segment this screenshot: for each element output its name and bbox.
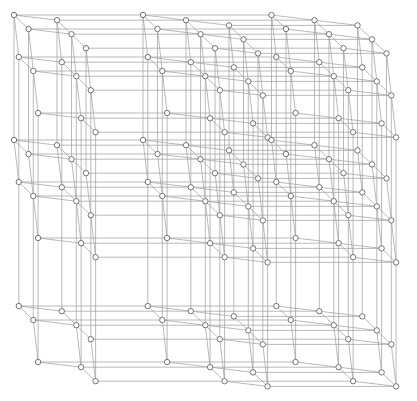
graph-node xyxy=(317,309,322,314)
graph-node xyxy=(389,93,394,98)
graph-node xyxy=(188,185,193,190)
graph-node xyxy=(59,309,64,314)
graph-node xyxy=(269,12,274,17)
graph-node xyxy=(198,157,203,162)
graph-node xyxy=(164,359,169,364)
graph-node xyxy=(369,37,374,42)
graph-node xyxy=(260,93,265,98)
graph-node xyxy=(288,317,293,322)
graph-node xyxy=(59,185,64,190)
graph-node xyxy=(288,68,293,73)
graph-node xyxy=(355,23,360,28)
graph-node xyxy=(69,157,74,162)
graph-node xyxy=(274,303,279,308)
graph-node xyxy=(341,171,346,176)
graph-node xyxy=(246,204,251,209)
graph-node xyxy=(331,199,336,204)
graph-node xyxy=(35,110,40,115)
graph-node xyxy=(384,176,389,181)
graph-node xyxy=(88,213,93,218)
graph-node xyxy=(212,46,217,51)
graph-node xyxy=(155,26,160,31)
graph-node xyxy=(217,213,222,218)
diagram-canvas xyxy=(0,0,417,401)
graph-node xyxy=(265,384,270,389)
graph-node xyxy=(207,365,212,370)
graph-node xyxy=(283,151,288,156)
graph-node xyxy=(93,130,98,135)
graph-node xyxy=(336,241,341,246)
graph-node xyxy=(384,51,389,56)
graph-node xyxy=(389,218,394,223)
graph-node xyxy=(312,18,317,23)
graph-node xyxy=(360,190,365,195)
graph-node xyxy=(93,379,98,384)
graph-node xyxy=(250,246,255,251)
graph-node xyxy=(336,116,341,121)
graph-node xyxy=(374,79,379,84)
graph-node xyxy=(54,143,59,148)
graph-node xyxy=(16,179,21,184)
graph-node xyxy=(160,317,165,322)
graph-node xyxy=(188,309,193,314)
graph-node xyxy=(250,121,255,126)
graph-node xyxy=(183,18,188,23)
graph-node xyxy=(78,241,83,246)
graph-node xyxy=(74,199,79,204)
graph-node xyxy=(379,246,384,251)
graph-node xyxy=(164,110,169,115)
graph-node xyxy=(355,148,360,153)
graph-node xyxy=(346,88,351,93)
graph-node xyxy=(83,46,88,51)
graph-node xyxy=(288,193,293,198)
graph-node xyxy=(222,255,227,260)
graph-node xyxy=(374,328,379,333)
graph-node xyxy=(217,337,222,342)
graph-node xyxy=(59,60,64,65)
graph-node xyxy=(246,328,251,333)
graph-node xyxy=(11,137,16,142)
graph-node xyxy=(160,68,165,73)
graph-node xyxy=(69,32,74,37)
graph-node xyxy=(222,130,227,135)
graph-node xyxy=(331,323,336,328)
graph-node xyxy=(260,342,265,347)
graph-node xyxy=(26,151,31,156)
graph-node xyxy=(374,204,379,209)
graph-node xyxy=(88,337,93,342)
graph-node xyxy=(250,370,255,375)
graph-node xyxy=(283,26,288,31)
graph-node xyxy=(331,74,336,79)
graph-node xyxy=(140,12,145,17)
graph-node xyxy=(203,199,208,204)
graph-node xyxy=(231,314,236,319)
graph-node xyxy=(35,359,40,364)
graph-node xyxy=(379,121,384,126)
graph-node xyxy=(188,60,193,65)
graph-node xyxy=(155,151,160,156)
graph-node xyxy=(274,179,279,184)
graph-node xyxy=(198,32,203,37)
graph-node xyxy=(393,135,398,140)
graph-node xyxy=(31,193,36,198)
graph-node xyxy=(360,65,365,70)
graph-node xyxy=(350,130,355,135)
graph-node xyxy=(274,54,279,59)
graph-node xyxy=(326,32,331,37)
graph-node xyxy=(145,179,150,184)
graph-node xyxy=(265,260,270,265)
graph-node xyxy=(293,235,298,240)
graph-node xyxy=(183,143,188,148)
graph-node xyxy=(217,88,222,93)
graph-node xyxy=(140,137,145,142)
graph-node xyxy=(293,110,298,115)
graph-node xyxy=(145,303,150,308)
graph-node xyxy=(54,18,59,23)
graph-node xyxy=(31,317,36,322)
graph-node xyxy=(269,137,274,142)
graph-node xyxy=(78,365,83,370)
graph-node xyxy=(226,148,231,153)
graph-node xyxy=(350,255,355,260)
graph-node xyxy=(389,342,394,347)
graph-node xyxy=(145,54,150,59)
